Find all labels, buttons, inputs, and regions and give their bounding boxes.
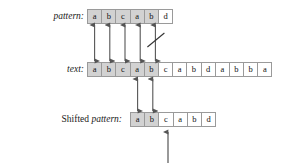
pattern-cell-row: abcabd xyxy=(87,9,173,24)
cell: c xyxy=(158,112,173,127)
cell: a xyxy=(130,112,145,127)
cell: b xyxy=(101,9,116,24)
cell: a xyxy=(215,62,230,77)
text-label-italic: text: xyxy=(67,64,84,74)
cell: b xyxy=(186,62,201,77)
arrows-overlay xyxy=(0,0,289,167)
text-cell-row: abcabcabdabba xyxy=(87,62,272,77)
cell: a xyxy=(130,62,145,77)
match-arrows-top xyxy=(95,25,156,61)
cell: b xyxy=(229,62,244,77)
cell: a xyxy=(87,9,102,24)
cell: a xyxy=(130,9,145,24)
cell: d xyxy=(158,9,173,24)
match-arrows-bottom xyxy=(138,79,153,111)
pattern-row-label: pattern: xyxy=(18,10,84,22)
cell: c xyxy=(115,62,130,77)
cell: b xyxy=(187,112,202,127)
shifted-pattern-row-label: Shifted pattern: xyxy=(8,113,122,125)
cell: c xyxy=(158,62,173,77)
string-matching-diagram: pattern: abcabd text: abcabcabdabba Shif… xyxy=(0,0,289,167)
cell: c xyxy=(115,9,130,24)
cell: b xyxy=(101,62,116,77)
cell: b xyxy=(144,9,159,24)
shifted-pattern-cell-row: abcabd xyxy=(130,112,216,127)
mismatch-slash-icon xyxy=(147,33,164,47)
cell: b xyxy=(243,62,258,77)
shifted-label-italic: pattern: xyxy=(91,114,122,124)
cell: d xyxy=(201,112,216,127)
text-row-label: text: xyxy=(18,63,84,75)
cell: a xyxy=(173,112,188,127)
shifted-label-roman: Shifted xyxy=(62,114,92,124)
cell: a xyxy=(172,62,187,77)
cell: a xyxy=(257,62,272,77)
pattern-label-italic: pattern: xyxy=(53,11,84,21)
cell: a xyxy=(87,62,102,77)
cell: d xyxy=(201,62,216,77)
cell: b xyxy=(144,62,159,77)
cell: b xyxy=(144,112,159,127)
